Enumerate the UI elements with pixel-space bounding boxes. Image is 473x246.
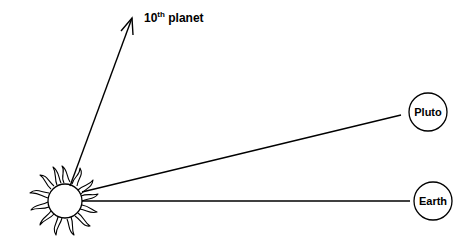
pluto-line (82, 115, 401, 192)
tenth-planet-arrow-line (70, 18, 132, 186)
pluto-label: Pluto (414, 106, 442, 118)
earth-label: Earth (419, 195, 447, 207)
sun-circle (48, 184, 82, 218)
tenth-planet-label: 10th planet (144, 10, 204, 25)
solar-diagram: 10th planet Pluto Earth (0, 0, 473, 246)
